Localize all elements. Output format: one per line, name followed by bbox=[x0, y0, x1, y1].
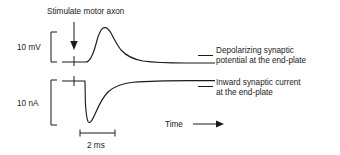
time-scale-bar-label: 2 ms bbox=[87, 141, 105, 150]
figure-panel: Stimulate motor axon 10 mV Depolarizing … bbox=[0, 0, 340, 155]
lower-annotation-line2: at the end-plate bbox=[216, 88, 273, 97]
upper-annotation-line2: potential at the end-plate bbox=[216, 56, 307, 65]
upper-annotation-line1: Depolarizing synaptic bbox=[216, 46, 294, 55]
lower-annotation-line1: Inward synaptic current bbox=[216, 78, 301, 87]
current-scale-label: 10 nA bbox=[17, 99, 39, 108]
voltage-scale-label: 10 mV bbox=[17, 43, 41, 52]
synaptic-recording-diagram: Stimulate motor axon 10 mV Depolarizing … bbox=[0, 0, 340, 155]
time-axis-label: Time bbox=[165, 120, 183, 129]
figure-title: Stimulate motor axon bbox=[47, 7, 125, 16]
